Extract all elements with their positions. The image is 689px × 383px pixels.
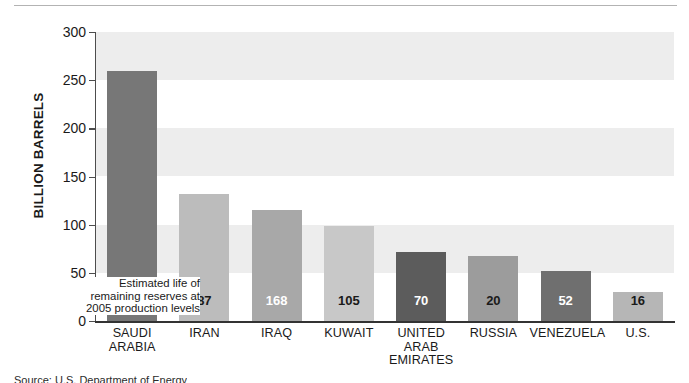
bar: 168 (252, 210, 302, 321)
y-axis-tick-label: 50 (40, 266, 86, 280)
bar: 20 (468, 256, 518, 322)
x-axis-category-label: VENEZUELA (530, 327, 602, 341)
y-axis-tick-label: 150 (40, 170, 86, 184)
category-label-line: EMIRATES (385, 354, 457, 368)
bar: 105 (324, 226, 374, 321)
y-axis-tick (89, 177, 95, 178)
bar: 52 (541, 271, 591, 321)
background-band (96, 128, 674, 176)
bar-years-value: 16 (613, 294, 663, 307)
category-label-line: UNITED (385, 327, 457, 341)
x-axis-category-label: IRAQ (241, 327, 313, 341)
bar-years-value: 52 (541, 294, 591, 307)
y-axis-tick-label: 250 (40, 73, 86, 87)
annotation-line-2: remaining reserves at (84, 290, 200, 303)
category-label-line: U.S. (602, 327, 674, 341)
category-label-line: RUSSIA (457, 327, 529, 341)
annotation-line-3: 2005 production levels (84, 302, 200, 315)
y-axis-tick-label: 300 (40, 25, 86, 39)
y-axis-tick (89, 32, 95, 33)
y-axis-tick (89, 321, 95, 322)
category-label-line: IRAQ (241, 327, 313, 341)
annotation-estimated-life: Estimated life of remaining reserves at … (84, 277, 200, 315)
x-axis-category-label: RUSSIA (457, 327, 529, 341)
category-label-line: VENEZUELA (530, 327, 602, 341)
chart-figure: BILLION BARRELS YEARS:758716810570205216… (0, 0, 689, 383)
x-axis-category-label: SAUDIARABIA (96, 327, 168, 354)
bar: 70 (396, 252, 446, 321)
x-axis-category-label: UNITEDARABEMIRATES (385, 327, 457, 368)
y-axis-tick (89, 128, 95, 129)
bar-years-value: 20 (468, 294, 518, 307)
background-band (96, 32, 674, 80)
x-axis-category-label: KUWAIT (313, 327, 385, 341)
category-label-line: ARAB (385, 341, 457, 355)
bar-years-value: 70 (396, 294, 446, 307)
category-label-line: ARABIA (96, 341, 168, 355)
y-axis-tick-label: 100 (40, 218, 86, 232)
bar-years-value: 168 (252, 294, 302, 307)
y-axis-tick (89, 80, 95, 81)
annotation-line-1: Estimated life of (84, 277, 200, 290)
y-axis-tick (89, 225, 95, 226)
y-axis-tick (89, 273, 95, 274)
category-label-line: IRAN (168, 327, 240, 341)
x-axis-category-label: U.S. (602, 327, 674, 341)
bar: 16 (613, 292, 663, 321)
y-axis-tick-label: 0 (40, 314, 86, 328)
source-note: Source: U.S. Department of Energy (14, 374, 187, 383)
category-label-line: KUWAIT (313, 327, 385, 341)
x-axis-line (95, 321, 675, 323)
y-axis-tick-label: 200 (40, 121, 86, 135)
top-divider-rule (14, 5, 677, 6)
bar-years-value: 105 (324, 294, 374, 307)
x-axis-category-label: IRAN (168, 327, 240, 341)
category-label-line: SAUDI (96, 327, 168, 341)
